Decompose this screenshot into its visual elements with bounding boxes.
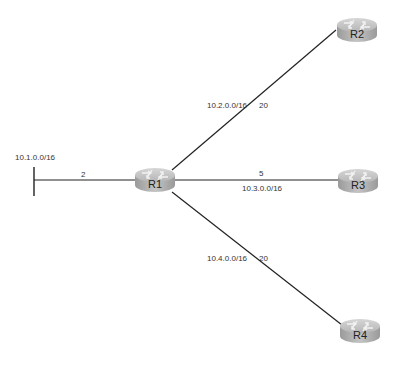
link-r1-r2 [172,30,336,170]
network-label-10-4: 10.4.0.0/16 [207,254,247,263]
router-r1[interactable]: R1 [135,168,175,192]
router-r3[interactable]: R3 [338,169,378,193]
link-r1-r4 [172,192,342,325]
cost-label-link4: 20 [259,254,268,263]
router-label-r3: R3 [351,179,365,191]
router-label-r1: R1 [148,178,162,190]
network-label-10-1: 10.1.0.0/16 [15,153,55,162]
cost-label-link2: 20 [259,101,268,110]
network-diagram: R1 R2 R3 R4 [0,0,408,367]
router-label-r4: R4 [353,329,367,341]
router-r4[interactable]: R4 [340,319,380,343]
router-r2[interactable]: R2 [337,18,377,42]
network-label-10-3: 10.3.0.0/16 [242,184,282,193]
cost-label-link3: 5 [259,169,263,178]
router-label-r2: R2 [350,28,364,40]
network-label-10-2: 10.2.0.0/16 [207,101,247,110]
cost-label-link1: 2 [81,170,85,179]
